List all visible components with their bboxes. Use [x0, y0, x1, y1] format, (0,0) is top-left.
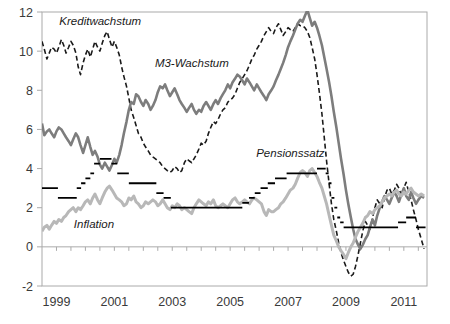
pensionssatz-label: Pensionssatz: [256, 147, 325, 159]
y-tick-label: 6: [26, 123, 33, 137]
x-tick-label: 2003: [158, 295, 186, 309]
x-tick-label: 2005: [216, 295, 244, 309]
x-tick-label: 1999: [43, 295, 71, 309]
chart-container: KreditwachstumM3-WachstumPensionssatzInf…: [0, 0, 450, 324]
y-tick-label: 12: [19, 6, 33, 20]
x-tick-label: 2009: [332, 295, 360, 309]
y-tick-label: 0: [26, 240, 33, 254]
tick-labels-layer: -20246810121999200120032005200720092011: [19, 6, 417, 310]
y-tick-label: -2: [22, 280, 33, 294]
y-tick-label: 4: [26, 162, 33, 176]
x-tick-label: 2011: [390, 295, 417, 309]
m3-wachstum-label: M3-Wachstum: [155, 57, 229, 69]
x-tick-label: 2007: [274, 295, 302, 309]
y-tick-label: 8: [26, 84, 33, 98]
y-tick-label: 10: [19, 45, 33, 59]
kreditwachstum-label: Kreditwachstum: [59, 15, 141, 27]
series-m3-wachstum: [42, 10, 424, 249]
series-layer: [42, 10, 426, 276]
x-tick-label: 2001: [100, 295, 128, 309]
line-chart: KreditwachstumM3-WachstumPensionssatzInf…: [0, 0, 450, 324]
axes-layer: [37, 12, 427, 286]
series-inflation: [42, 169, 424, 259]
inflation-label: Inflation: [74, 218, 114, 230]
plot-frame: [42, 12, 427, 286]
y-tick-label: 2: [26, 201, 33, 215]
